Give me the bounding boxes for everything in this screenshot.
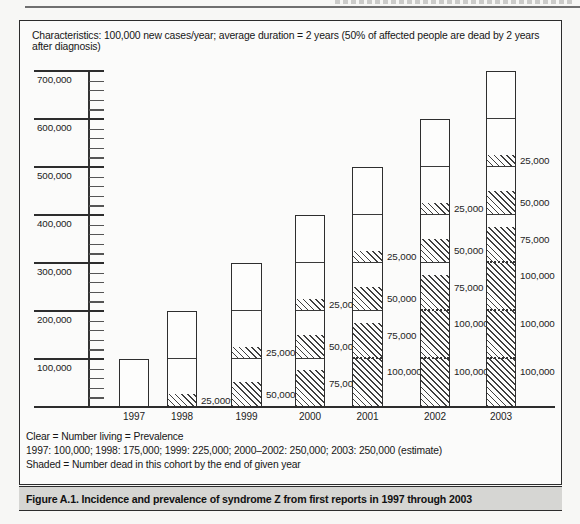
y-axis-minor-tick (89, 90, 104, 91)
x-axis-year-label: 2002 (413, 411, 457, 422)
y-axis-major-gridline (34, 262, 104, 264)
cohort-divider (353, 262, 382, 263)
figure-caption: Figure A.1. Incidence and prevalence of … (26, 493, 472, 505)
y-axis-minor-tick (89, 253, 104, 254)
bar-segment-shaded (487, 358, 515, 406)
bar-segment-shaded (487, 263, 515, 311)
bar-segment-clear (353, 167, 382, 215)
bar-segment-shaded (353, 358, 382, 406)
segment-value-label: 25,000* (201, 395, 234, 407)
bar-segment-clear (353, 215, 382, 251)
y-axis-major-gridline (34, 70, 104, 72)
y-axis-minor-tick (89, 369, 104, 370)
y-axis-minor-tick (89, 225, 104, 226)
y-axis-major-gridline (34, 166, 104, 168)
x-axis-year-label: 1999 (225, 411, 269, 422)
cohort-divider (487, 357, 515, 359)
segment-value-label: 75,000 (454, 282, 483, 294)
segment-value-label: 100,000 (387, 366, 422, 378)
cohort-divider (421, 262, 449, 263)
bar-segment-clear (296, 263, 324, 299)
bar-segment-shaded (353, 287, 382, 311)
cohort-divider (487, 118, 515, 119)
segment-value-label: 75,000 (387, 330, 416, 342)
scanned-page: Characteristics: 100,000 new cases/year;… (0, 0, 580, 524)
segment-value-label: 100,000 (520, 270, 555, 282)
segment-value-label: 50,000 (454, 245, 483, 257)
y-axis-major-gridline (34, 214, 104, 216)
y-axis-minor-tick (89, 148, 104, 149)
segment-value-label: 100,000 (520, 366, 555, 378)
bar-segment-clear (296, 311, 324, 335)
y-axis-minor-tick (89, 234, 104, 235)
y-axis-minor-tick (89, 109, 104, 110)
bar-segment-clear (168, 359, 196, 395)
segment-value-label: 100,000 (520, 318, 555, 330)
segment-value-label: 100,000 (454, 318, 489, 330)
y-axis-major-gridline (34, 310, 104, 312)
y-axis-minor-tick (89, 186, 104, 187)
y-axis-minor-tick (89, 244, 104, 245)
bar-1999 (231, 263, 262, 407)
bar-segment-clear (487, 215, 515, 227)
y-axis-minor-tick (89, 388, 104, 389)
bar-segment-clear (421, 263, 449, 275)
cohort-divider (232, 310, 261, 311)
bar-segment-clear (296, 359, 324, 371)
segment-value-label: 25,000 (266, 347, 295, 359)
segment-value-label: 100,000 (454, 366, 489, 378)
bar-segment-shaded (487, 227, 515, 263)
y-axis-minor-tick (89, 340, 104, 341)
x-axis-year-label: 2001 (346, 411, 390, 422)
y-axis-minor-tick (89, 138, 104, 139)
cohort-divider (421, 214, 449, 215)
cohort-divider (487, 214, 515, 215)
bar-segment-shaded (421, 358, 449, 406)
y-axis-minor-tick (89, 81, 104, 82)
y-axis-tick-label: 600,000 (37, 122, 72, 133)
y-axis-minor-tick (89, 301, 104, 302)
bar-1997 (119, 359, 149, 407)
bar-segment-shaded (296, 335, 324, 359)
bar-segment-clear (421, 167, 449, 203)
y-axis-minor-tick (89, 378, 104, 379)
bar-segment-clear (421, 215, 449, 239)
y-axis-minor-tick (89, 330, 104, 331)
bar-segment-clear (353, 263, 382, 287)
cohort-divider (296, 310, 324, 311)
bar-segment-shaded (421, 311, 449, 359)
bar-segment-shaded (421, 239, 449, 263)
cohort-divider (353, 310, 382, 311)
y-axis-minor-tick (89, 273, 104, 274)
y-axis-tick-label: 200,000 (37, 314, 72, 325)
cohort-divider (296, 358, 324, 359)
y-axis-tick-label: 300,000 (37, 266, 72, 277)
y-axis-minor-tick (89, 282, 104, 283)
figure-caption-band: Figure A.1. Incidence and prevalence of … (19, 486, 562, 511)
cohort-divider (487, 309, 515, 311)
y-axis-minor-tick (89, 205, 104, 206)
cohort-divider (487, 166, 515, 167)
y-axis-minor-tick (89, 397, 104, 398)
y-axis-minor-tick (89, 157, 104, 158)
bar-segment-shaded (353, 323, 382, 359)
x-axis-year-label: 1998 (160, 411, 204, 422)
y-axis-major-gridline (34, 118, 104, 120)
y-axis-minor-tick (89, 196, 104, 197)
cohort-divider (421, 309, 449, 311)
y-axis-major-gridline (34, 358, 104, 360)
cohort-divider (296, 262, 324, 263)
bar-segment-clear (232, 359, 261, 383)
bar-segment-clear (232, 311, 261, 347)
bar-segment-shaded (487, 191, 515, 215)
bar-segment-shaded (232, 382, 261, 406)
y-axis-minor-tick (89, 292, 104, 293)
x-axis-year-label: 1997 (112, 411, 156, 422)
bar-2001 (352, 167, 383, 407)
y-axis-minor-tick (89, 129, 104, 130)
legend-line-values: 1997: 100,000; 1998: 175,000; 1999: 225,… (26, 444, 442, 458)
cohort-divider (232, 358, 261, 359)
bar-segment-clear (487, 119, 515, 155)
segment-value-label: 50,000 (387, 293, 416, 305)
bar-segment-clear (232, 263, 261, 311)
